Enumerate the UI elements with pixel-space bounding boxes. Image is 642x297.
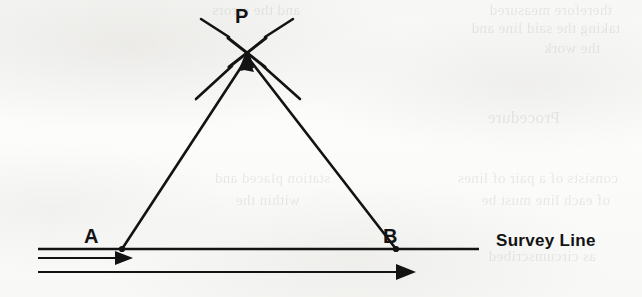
survey-triangulation-figure: [0, 0, 642, 297]
upper-right-tick-icon: [265, 19, 293, 37]
survey-line-label: Survey Line: [496, 232, 596, 249]
station-label-a: A: [84, 226, 98, 246]
arrow-on-middle-offset-line: [115, 251, 133, 265]
lower-left-tick-icon: [196, 66, 232, 99]
offset-line-middle-group: [38, 251, 133, 265]
arrow-on-bottom-offset-line: [396, 264, 416, 280]
station-label-b: B: [383, 226, 397, 246]
apex-label-p: P: [235, 6, 248, 26]
station-marker-a: [119, 246, 125, 252]
upper-left-tick-icon: [201, 19, 229, 37]
offset-line-bottom-group: [38, 264, 416, 280]
leg-b-to-p: [246, 55, 396, 249]
triangle-legs: [122, 55, 396, 249]
leg-a-to-p: [122, 55, 249, 249]
diagram-page: therefore measuredtaking the said line a…: [0, 0, 642, 297]
